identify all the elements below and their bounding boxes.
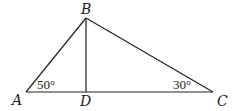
vertex-label-a: A: [10, 92, 22, 108]
vertex-label-c: C: [217, 93, 228, 109]
angle-label-a: 50°: [37, 77, 55, 92]
segment-ab: [26, 18, 86, 92]
angle-label-c: 30°: [173, 77, 191, 92]
diagram-canvas: B A D C 50° 30°: [0, 0, 233, 111]
vertex-label-d: D: [79, 93, 91, 109]
triangle-diagram: B A D C 50° 30°: [0, 0, 233, 111]
vertex-label-b: B: [80, 1, 91, 17]
segment-bc: [86, 18, 213, 92]
